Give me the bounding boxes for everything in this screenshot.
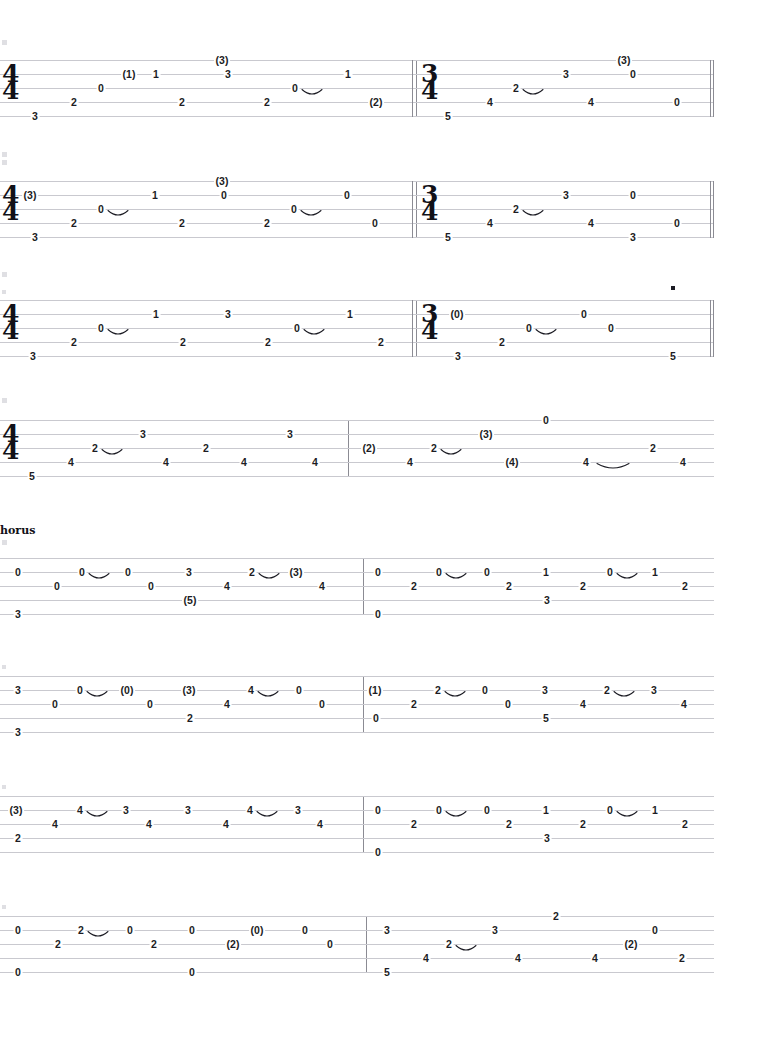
fret-number: 4 [514,953,523,964]
staff-line [363,838,714,839]
fret-number: 0 [483,567,492,578]
staff-line [0,102,418,103]
scan-artifact [2,160,7,165]
barline [710,300,711,357]
fret-number: 3 [29,351,38,362]
barline [710,60,711,117]
staff-line [0,195,418,196]
staff-line [0,676,368,677]
fret-number: (5) [182,595,198,606]
staff-line [366,958,714,959]
tablature-page: 44320(1)12(3)3201(2)3454234(3)0044(3)320… [0,0,758,1055]
scan-artifact [2,40,7,45]
fret-number: 0 [78,567,87,578]
time-signature: 34 [421,186,437,220]
fret-number: 0 [673,218,682,229]
fret-number: (3) [181,685,197,696]
barline [412,181,413,238]
fret-number: 5 [383,967,392,978]
staff-line [366,944,714,945]
fret-number: 3 [31,111,40,122]
staff-line [0,300,418,301]
repeat-dot-marker [671,286,675,290]
time-signature-denominator: 4 [2,203,18,220]
tab-staff: 34(0)320005 [416,300,714,362]
fret-number: 4 [587,97,596,108]
fret-number: 4 [679,457,688,468]
staff-line [416,342,714,343]
staff-line [0,838,368,839]
fret-number: (2) [623,939,639,950]
time-signature: 34 [421,305,437,339]
staff-lines [0,60,418,122]
fret-number: 0 [629,69,638,80]
staff-line [416,60,714,61]
fret-number: 2 [264,337,273,348]
fret-number: 2 [70,337,79,348]
staff-line [0,718,368,719]
fret-number: 4 [67,457,76,468]
time-signature: 44 [2,65,18,99]
time-signature-denominator: 4 [2,82,18,99]
scan-artifact [2,905,6,909]
staff-line [0,420,352,421]
fret-number: 2 [681,581,690,592]
staff-line [416,181,714,182]
staff-line [363,676,714,677]
fret-number: 3 [184,805,193,816]
tab-staff: 3454234300 [416,181,714,243]
fret-number: 0 [629,190,638,201]
fret-number: 0 [374,567,383,578]
fret-number: 4 [223,699,232,710]
staff-line [363,732,714,733]
fret-number: 0 [124,567,133,578]
staff-line [0,223,418,224]
staff-line [363,810,714,811]
fret-number: 4 [587,218,596,229]
fret-number: (2) [368,97,384,108]
fret-number: 0 [97,204,106,215]
staff-line [0,342,418,343]
staff-line [0,796,368,797]
fret-number: 0 [374,609,383,620]
fret-number: 3 [541,685,550,696]
fret-number: (3) [616,55,632,66]
fret-number: 0 [481,685,490,696]
staff-line [0,930,372,931]
staff-line [348,420,714,421]
tab-staff: (2)42(3)0(4)424 [348,420,714,482]
fret-number: 4 [145,819,154,830]
fret-number: 2 [552,911,561,922]
fret-number: 3 [139,429,148,440]
staff-line [0,88,418,89]
scan-artifact [2,290,6,294]
fret-number: 4 [162,457,171,468]
barline [713,300,714,357]
staff-line [416,328,714,329]
fret-number: 4 [579,699,588,710]
fret-number: 2 [410,819,419,830]
staff-line [0,116,418,117]
tab-staff: (1)02200354234 [363,676,714,738]
fret-number: 2 [579,581,588,592]
fret-number: 1 [346,309,355,320]
fret-number: 0 [651,925,660,936]
tab-staff: 443201232012 [0,300,418,362]
fret-number: 2 [91,443,100,454]
fret-number: 4 [422,953,431,964]
fret-number: 0 [606,567,615,578]
tab-staff: 3454234(3)00 [416,60,714,122]
fret-number: 1 [542,805,551,816]
fret-number: 3 [383,925,392,936]
fret-number: 3 [286,429,295,440]
fret-number: (3) [22,190,38,201]
staff-line [0,916,372,917]
fret-number: 0 [14,567,23,578]
fret-number: 3 [14,609,23,620]
fret-number: 1 [344,69,353,80]
fret-number: 2 [178,218,187,229]
fret-number: 0 [97,83,106,94]
staff-line [0,448,352,449]
scan-artifact [2,152,7,157]
fret-number: (3) [8,805,24,816]
